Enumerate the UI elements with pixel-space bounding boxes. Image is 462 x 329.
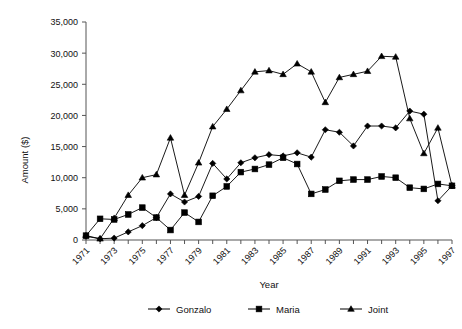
data-point-triangle xyxy=(322,99,329,105)
x-tick-label: 1977 xyxy=(155,245,176,266)
series-line xyxy=(86,56,452,238)
data-point-triangle xyxy=(378,53,385,59)
data-point-square xyxy=(168,227,174,233)
data-point-triangle xyxy=(181,192,188,198)
y-tick-label: 25,000 xyxy=(50,80,78,90)
y-tick-label: 5,000 xyxy=(55,204,78,214)
data-point-square xyxy=(337,178,343,184)
data-point-square xyxy=(421,186,427,192)
data-point-square xyxy=(266,162,272,168)
series-gonzalo xyxy=(83,108,455,242)
data-point-triangle xyxy=(266,67,273,73)
legend-label: Joint xyxy=(368,304,388,315)
y-tick-label: 10,000 xyxy=(50,173,78,183)
y-axis-ticks: 05,00010,00015,00020,00025,00030,00035,0… xyxy=(50,17,86,245)
data-point-triangle xyxy=(421,150,428,156)
legend-item-gonzalo[interactable]: Gonzalo xyxy=(148,304,211,315)
data-point-triangle xyxy=(407,115,414,121)
data-point-diamond xyxy=(252,155,258,161)
chart-legend: GonzaloMariaJoint xyxy=(148,304,388,315)
data-point-square xyxy=(379,174,385,180)
data-point-triangle xyxy=(195,160,202,166)
x-tick-label: 1981 xyxy=(211,245,232,266)
data-point-triangle xyxy=(294,60,301,66)
data-point-diamond xyxy=(322,127,328,133)
legend-item-maria[interactable]: Maria xyxy=(248,304,300,315)
y-axis-title: Amount ($) xyxy=(19,137,30,184)
x-tick-label: 1991 xyxy=(352,245,373,266)
y-tick-label: 15,000 xyxy=(50,142,78,152)
data-point-diamond xyxy=(294,150,300,156)
data-point-triangle xyxy=(308,69,315,75)
data-point-square xyxy=(252,166,258,172)
data-point-square xyxy=(154,215,160,221)
y-tick-label: 35,000 xyxy=(50,17,78,27)
x-tick-label: 1987 xyxy=(295,245,316,266)
data-point-square xyxy=(294,161,300,167)
y-tick-label: 0 xyxy=(73,235,78,245)
chart-figure: Amount ($) 05,00010,00015,00020,00025,00… xyxy=(0,0,462,329)
y-tick-label: 30,000 xyxy=(50,49,78,59)
legend-item-joint[interactable]: Joint xyxy=(340,304,388,315)
data-point-diamond xyxy=(266,152,272,158)
line-chart: Amount ($) 05,00010,00015,00020,00025,00… xyxy=(0,0,462,329)
y-tick-label: 20,000 xyxy=(50,111,78,121)
data-point-square xyxy=(256,306,262,312)
x-tick-label: 1975 xyxy=(126,245,147,266)
legend-label: Gonzalo xyxy=(176,304,211,315)
data-point-square xyxy=(139,205,145,211)
data-point-triangle xyxy=(153,171,160,177)
series-joint xyxy=(83,53,456,241)
data-point-diamond xyxy=(421,111,427,117)
x-tick-label: 1979 xyxy=(183,245,204,266)
data-point-diamond xyxy=(379,123,385,129)
data-point-triangle xyxy=(435,125,442,131)
x-axis-title-label: Year xyxy=(259,279,278,290)
data-point-diamond xyxy=(125,229,131,235)
data-point-square xyxy=(238,169,244,175)
data-point-diamond xyxy=(167,191,173,197)
x-tick-label: 1971 xyxy=(70,245,91,266)
x-tick-label: 1995 xyxy=(408,245,429,266)
data-point-diamond xyxy=(156,306,162,312)
data-point-square xyxy=(322,187,328,193)
x-tick-label: 1985 xyxy=(267,245,288,266)
data-point-square xyxy=(97,216,103,222)
data-point-square xyxy=(125,212,131,218)
data-point-triangle xyxy=(167,135,174,141)
series-maria xyxy=(83,155,455,239)
x-tick-label: 1989 xyxy=(324,245,345,266)
data-point-square xyxy=(308,191,314,197)
data-point-diamond xyxy=(181,199,187,205)
data-point-square xyxy=(280,155,286,161)
data-point-diamond xyxy=(364,123,370,129)
data-point-square xyxy=(210,193,216,199)
data-point-diamond xyxy=(139,223,145,229)
data-point-square xyxy=(393,175,399,181)
data-point-square xyxy=(351,177,357,183)
data-point-diamond xyxy=(196,193,202,199)
data-point-square xyxy=(196,219,202,225)
y-axis-title-label: Amount ($) xyxy=(19,137,30,184)
x-tick-label: 1983 xyxy=(239,245,260,266)
x-tick-label: 1997 xyxy=(436,245,457,266)
x-tick-label: 1993 xyxy=(380,245,401,266)
data-point-diamond xyxy=(308,154,314,160)
data-point-square xyxy=(435,181,441,187)
data-point-square xyxy=(182,210,188,216)
x-tick-label: 1973 xyxy=(98,245,119,266)
data-point-square xyxy=(365,177,371,183)
x-axis-ticks: 1971197319751977197919811983198519871989… xyxy=(70,240,457,267)
data-point-square xyxy=(407,185,413,191)
data-point-square xyxy=(224,184,230,190)
data-series-group xyxy=(83,53,456,242)
legend-label: Maria xyxy=(276,304,300,315)
